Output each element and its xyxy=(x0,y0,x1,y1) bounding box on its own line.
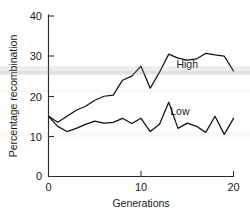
y-tick-label-20: 20 xyxy=(30,91,42,103)
y-tick-label-30: 30 xyxy=(30,50,42,62)
series-line-low xyxy=(49,102,234,134)
x-axis-title: Generations xyxy=(112,197,169,209)
y-tick-label-0: 0 xyxy=(36,170,42,182)
series-label-low: Low xyxy=(170,105,190,117)
x-axis-ticks xyxy=(49,171,234,177)
x-tick-label-20: 20 xyxy=(227,181,239,193)
series-label-high: High xyxy=(176,58,198,70)
y-tick-label-40: 40 xyxy=(30,10,42,22)
x-tick-label-0: 0 xyxy=(45,181,51,193)
line-chart-plot: 40 30 20 10 0 0 10 20 Generations Percen… xyxy=(0,0,250,215)
series-line-high xyxy=(49,53,234,122)
y-axis-title: Percentage recombination xyxy=(7,35,19,158)
chart-figure: 40 30 20 10 0 0 10 20 Generations Percen… xyxy=(0,0,250,215)
y-tick-label-10: 10 xyxy=(30,131,42,143)
x-tick-label-10: 10 xyxy=(135,181,147,193)
